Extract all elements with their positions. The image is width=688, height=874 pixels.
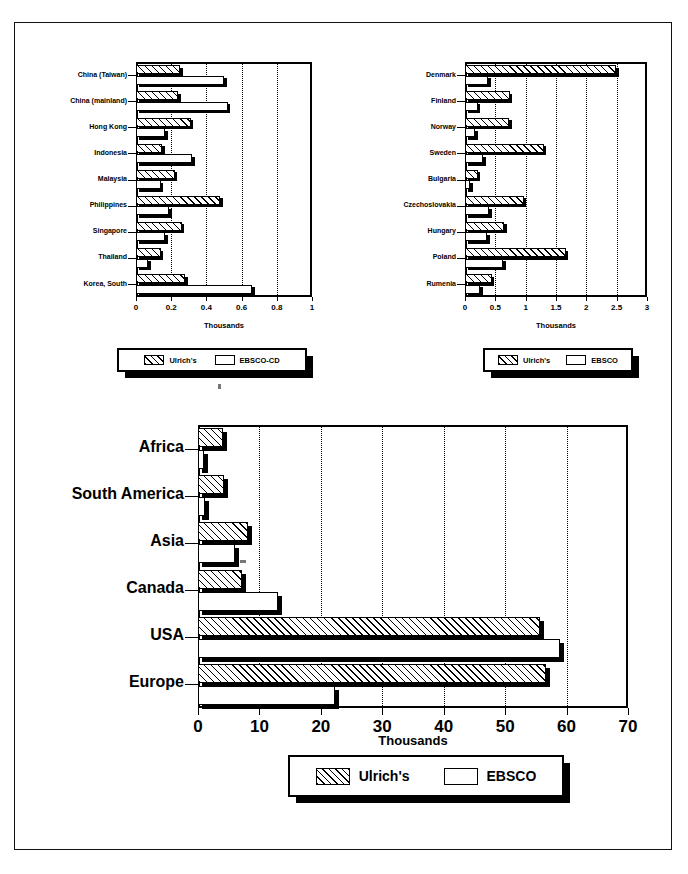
x-tick <box>505 708 506 715</box>
category-tick <box>457 180 465 181</box>
bar-ulrichs <box>198 617 540 636</box>
gridline <box>526 62 527 297</box>
bar-ebsco <box>136 128 165 137</box>
category-label: Canada <box>36 580 184 596</box>
x-tick-label: 1 <box>282 304 342 312</box>
scan-speck <box>240 560 246 563</box>
x-tick <box>617 297 618 301</box>
europe-chart-xlabel: Thousands <box>465 321 647 330</box>
legend-label: EBSCO-CD <box>240 356 280 365</box>
legend-box: Ulrich's EBSCO <box>288 755 564 797</box>
category-tick <box>128 258 136 259</box>
x-tick <box>242 297 243 301</box>
legend-box: Ulrich's EBSCO <box>483 348 633 372</box>
legend-entry-ebsco: EBSCO <box>566 355 618 365</box>
bar-ulrichs <box>136 91 178 100</box>
legend-swatch-white <box>444 768 478 785</box>
bar-ulrichs <box>198 475 224 494</box>
x-tick <box>171 297 172 301</box>
world-chart-xlabel: Thousands <box>198 733 628 748</box>
bar-ulrichs <box>136 196 220 205</box>
legend-box: Ulrich's EBSCO-CD <box>117 348 307 372</box>
category-label: Korea, South <box>47 280 127 287</box>
gridline <box>567 425 568 708</box>
category-label: China (mainland) <box>47 97 127 104</box>
bar-ebsco <box>465 285 480 294</box>
bar-ulrichs <box>198 664 546 683</box>
category-label: Finland <box>378 97 456 104</box>
legend-swatch-hatch <box>316 768 350 785</box>
category-label: Indonesia <box>47 149 127 156</box>
gridline <box>617 62 618 297</box>
category-tick <box>128 127 136 128</box>
bar-ulrichs <box>198 428 223 447</box>
category-tick <box>457 127 465 128</box>
bar-ulrichs <box>465 170 478 179</box>
bar-ebsco <box>465 232 487 241</box>
bar-ebsco <box>198 592 278 611</box>
legend-entry-ebsco: EBSCO <box>444 768 537 785</box>
category-label: Philippines <box>47 201 127 208</box>
category-tick <box>128 284 136 285</box>
bar-ulrichs <box>198 522 248 541</box>
x-tick <box>567 708 568 715</box>
category-label: Norway <box>378 123 456 130</box>
gridline <box>206 62 207 297</box>
category-tick <box>457 153 465 154</box>
category-tick <box>128 75 136 76</box>
scan-speck <box>218 384 221 389</box>
category-label: South America <box>36 486 184 502</box>
asia-chart: China (Taiwan)China (mainland)Hong KongI… <box>0 0 340 400</box>
legend-label: Ulrich's <box>169 356 196 365</box>
bar-ulrichs <box>465 65 616 74</box>
x-tick <box>465 297 466 301</box>
category-label: Hong Kong <box>47 123 127 130</box>
bar-ulrichs <box>136 274 185 283</box>
x-tick <box>277 297 278 301</box>
bar-ebsco <box>136 154 192 163</box>
category-label: Singapore <box>47 227 127 234</box>
x-tick <box>382 708 383 715</box>
bar-ebsco <box>136 232 165 241</box>
bar-ulrichs <box>198 570 242 589</box>
bar-ebsco <box>465 180 470 189</box>
x-tick <box>198 708 199 715</box>
bar-ulrichs <box>136 118 191 127</box>
bar-ebsco <box>198 544 235 563</box>
category-tick <box>457 206 465 207</box>
category-tick <box>128 101 136 102</box>
bar-ulrichs <box>465 118 509 127</box>
x-tick <box>647 297 648 301</box>
bar-ebsco <box>136 206 169 215</box>
bar-ulrichs <box>465 144 544 153</box>
x-tick <box>526 297 527 301</box>
legend-label: EBSCO <box>591 356 618 365</box>
category-label: USA <box>36 627 184 643</box>
bar-ebsco <box>465 76 488 85</box>
bar-ebsco <box>136 76 224 85</box>
x-tick <box>206 297 207 301</box>
category-tick <box>457 232 465 233</box>
legend-swatch-white <box>566 355 586 365</box>
category-label: China (Taiwan) <box>47 71 127 78</box>
bar-ulrichs <box>465 274 492 283</box>
category-tick <box>185 496 198 497</box>
x-tick <box>495 297 496 301</box>
asia-chart-legend: Ulrich's EBSCO-CD <box>117 348 313 378</box>
category-label: Czechoslovakia <box>378 201 456 208</box>
category-label: Thailand <box>47 253 127 260</box>
bar-ulrichs <box>465 248 566 257</box>
category-label: Asia <box>36 533 184 549</box>
bar-ulrichs <box>465 196 524 205</box>
category-tick <box>185 449 198 450</box>
bar-ebsco <box>136 180 161 189</box>
bar-ebsco <box>198 450 204 469</box>
gridline <box>586 62 587 297</box>
x-tick <box>556 297 557 301</box>
category-label: Denmark <box>378 71 456 78</box>
category-tick <box>128 232 136 233</box>
x-tick <box>586 297 587 301</box>
bar-ulrichs <box>136 170 175 179</box>
bar-ebsco <box>465 206 489 215</box>
bar-ulrichs <box>136 248 161 257</box>
